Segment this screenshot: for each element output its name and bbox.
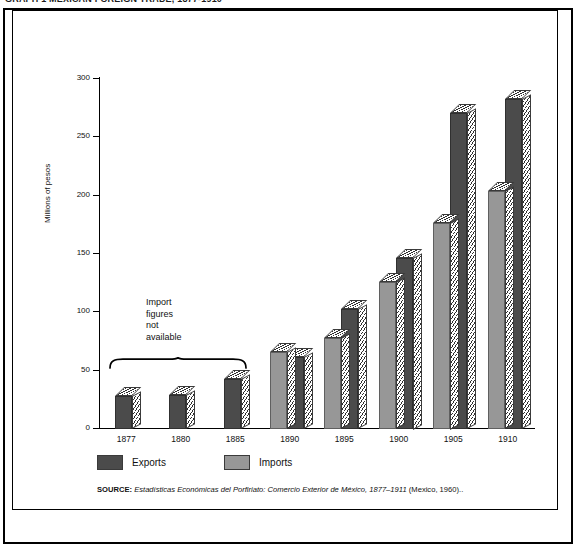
y-tick-label: 100 <box>77 307 90 315</box>
y-tick-label: 0 <box>86 424 90 432</box>
legend-label-imports: Imports <box>259 457 292 468</box>
plot-area: 050100150200250300 187718801885189018951… <box>99 77 535 429</box>
bar-group <box>270 77 304 429</box>
cropped-title-strip: GRAPH 1 MEXICAN FOREIGN TRADE, 1877-1910 <box>0 0 578 7</box>
figure-inner-border: 050100150200250300 187718801885189018951… <box>12 10 558 510</box>
y-tick <box>93 370 100 371</box>
bar-side-face <box>396 277 405 429</box>
bar-side-face <box>358 304 367 429</box>
y-tick <box>93 311 100 312</box>
bar-side-face <box>522 94 531 429</box>
bar-front-face <box>169 395 186 429</box>
source-label: SOURCE: <box>97 485 132 494</box>
bar-imports-1910 <box>488 191 505 429</box>
y-tick-label: 200 <box>77 191 90 199</box>
x-tick-label: 1905 <box>426 434 481 444</box>
x-tick-label: 1890 <box>263 434 318 444</box>
x-tick-label: 1877 <box>99 434 154 444</box>
bar-imports-1900 <box>379 282 396 429</box>
bar-exports-1885 <box>224 379 241 429</box>
y-axis-title: Millions of pesos <box>43 164 52 223</box>
bar-front-face <box>379 282 396 429</box>
bar-side-face <box>505 186 514 429</box>
figure-title: GRAPH 1 MEXICAN FOREIGN TRADE, 1877-1910 <box>5 0 222 4</box>
bar-group <box>224 77 241 429</box>
y-tick-label: 250 <box>77 132 90 140</box>
legend-item-imports: Imports <box>224 455 292 470</box>
legend-item-exports: Exports <box>97 455 166 470</box>
y-tick <box>93 195 100 196</box>
bar-side-face <box>132 392 141 429</box>
bar-group <box>379 77 413 429</box>
legend-label-exports: Exports <box>132 457 166 468</box>
y-tick <box>93 78 100 79</box>
bar-side-face <box>241 374 250 429</box>
y-tick <box>93 136 100 137</box>
bar-group <box>169 77 186 429</box>
import-note-line-4: available <box>146 332 182 344</box>
y-tick-label: 150 <box>77 249 90 257</box>
import-note-brace <box>109 355 247 367</box>
bar-front-face <box>224 379 241 429</box>
x-tick-label: 1880 <box>154 434 209 444</box>
bar-side-face <box>287 347 296 429</box>
bar-side-face <box>413 253 422 429</box>
bar-side-face <box>467 108 476 429</box>
bar-group <box>433 77 467 429</box>
import-note-line-2: figures <box>146 309 182 321</box>
bar-imports-1905 <box>433 223 450 430</box>
bar-side-face <box>450 218 459 429</box>
import-note-line-3: not <box>146 320 182 332</box>
bar-group <box>488 77 522 429</box>
bar-side-face <box>186 390 195 429</box>
bar-exports-1880 <box>169 395 186 429</box>
x-axis-line <box>99 428 535 429</box>
legend-swatch-exports <box>97 455 123 470</box>
import-note-text: Import figures not available <box>146 297 182 343</box>
bar-imports-1890 <box>270 352 287 429</box>
y-tick-label: 50 <box>81 366 90 374</box>
bar-side-face <box>304 352 313 429</box>
bar-side-face <box>341 333 350 429</box>
x-tick-label: 1910 <box>481 434 536 444</box>
source-note: SOURCE: Estadísticas Económicas del Porf… <box>97 485 463 494</box>
x-tick-label: 1895 <box>317 434 372 444</box>
bar-exports-1877 <box>115 396 132 429</box>
y-tick-label: 300 <box>77 74 90 82</box>
bar-front-face <box>270 352 287 429</box>
bar-group <box>115 77 132 429</box>
figure-page: GRAPH 1 MEXICAN FOREIGN TRADE, 1877-1910… <box>0 0 578 550</box>
source-citation: Estadísticas Económicas del Porfiriato: … <box>134 485 407 494</box>
bar-group <box>324 77 358 429</box>
x-tick-label: 1900 <box>372 434 427 444</box>
bar-front-face <box>488 191 505 429</box>
source-tail: (Mexico, 1960). <box>409 485 461 494</box>
bar-imports-1895 <box>324 338 341 429</box>
legend-swatch-imports <box>224 455 250 470</box>
y-tick <box>93 428 100 429</box>
y-tick <box>93 253 100 254</box>
bar-front-face <box>324 338 341 429</box>
x-tick-label: 1885 <box>208 434 263 444</box>
bar-front-face <box>115 396 132 429</box>
bar-front-face <box>433 223 450 430</box>
import-note-line-1: Import <box>146 297 182 309</box>
